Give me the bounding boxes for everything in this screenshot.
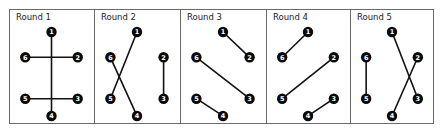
node-5: 5	[277, 94, 287, 104]
node-label: 1	[306, 28, 311, 36]
node-label: 2	[332, 54, 337, 62]
node-2: 2	[413, 52, 423, 62]
node-label: 3	[75, 95, 80, 103]
node-3: 3	[158, 94, 168, 104]
node-label: 2	[161, 54, 166, 62]
round-title: Round 1	[16, 12, 51, 22]
node-3: 3	[73, 94, 83, 104]
node-label: 4	[221, 112, 226, 120]
node-5: 5	[20, 94, 30, 104]
node-label: 2	[416, 54, 421, 62]
node-label: 1	[135, 28, 140, 36]
diagram-canvas: Round 1123456Round 2123456Round 3123456R…	[0, 0, 440, 132]
node-4: 4	[387, 111, 397, 121]
node-4: 4	[218, 111, 228, 121]
node-1: 1	[303, 27, 313, 37]
node-label: 4	[49, 112, 54, 120]
node-1: 1	[387, 27, 397, 37]
node-3: 3	[413, 94, 423, 104]
node-4: 4	[46, 111, 56, 121]
node-label: 4	[306, 112, 311, 120]
node-2: 2	[244, 52, 254, 62]
node-label: 5	[364, 95, 369, 103]
node-label: 1	[390, 28, 395, 36]
node-1: 1	[46, 27, 56, 37]
node-label: 3	[247, 95, 252, 103]
node-label: 5	[23, 95, 28, 103]
round-title: Round 3	[187, 12, 222, 22]
node-4: 4	[303, 111, 313, 121]
round-title: Round 5	[357, 12, 392, 22]
node-4: 4	[132, 111, 142, 121]
node-label: 5	[194, 95, 199, 103]
node-2: 2	[73, 52, 83, 62]
node-label: 6	[364, 54, 369, 62]
node-label: 6	[23, 54, 28, 62]
node-label: 5	[108, 95, 113, 103]
node-6: 6	[277, 52, 287, 62]
node-6: 6	[361, 52, 371, 62]
diagram-frame	[10, 10, 434, 124]
node-3: 3	[244, 94, 254, 104]
node-label: 1	[49, 28, 54, 36]
node-1: 1	[132, 27, 142, 37]
node-label: 3	[332, 95, 337, 103]
round-title: Round 2	[101, 12, 136, 22]
node-2: 2	[329, 52, 339, 62]
node-label: 6	[108, 54, 113, 62]
node-label: 4	[135, 112, 140, 120]
round-title: Round 4	[273, 12, 308, 22]
round-robin-diagram: Round 1123456Round 2123456Round 3123456R…	[0, 0, 440, 132]
node-label: 6	[280, 54, 285, 62]
node-3: 3	[329, 94, 339, 104]
node-5: 5	[105, 94, 115, 104]
node-6: 6	[20, 52, 30, 62]
node-5: 5	[361, 94, 371, 104]
node-label: 1	[221, 28, 226, 36]
node-1: 1	[218, 27, 228, 37]
node-2: 2	[158, 52, 168, 62]
node-label: 5	[280, 95, 285, 103]
node-label: 2	[75, 54, 80, 62]
node-6: 6	[105, 52, 115, 62]
node-5: 5	[191, 94, 201, 104]
node-label: 2	[247, 54, 252, 62]
node-6: 6	[191, 52, 201, 62]
node-label: 4	[390, 112, 395, 120]
node-label: 3	[416, 95, 421, 103]
node-label: 6	[194, 54, 199, 62]
node-label: 3	[161, 95, 166, 103]
